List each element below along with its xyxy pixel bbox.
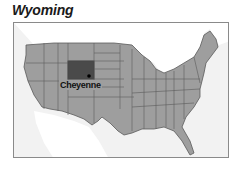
us-map — [14, 23, 229, 158]
page-title: Wyoming — [12, 2, 73, 18]
cheyenne-marker[interactable] — [87, 74, 91, 78]
map-frame: Cheyenne — [13, 22, 229, 158]
capital-label: Cheyenne — [59, 80, 102, 90]
